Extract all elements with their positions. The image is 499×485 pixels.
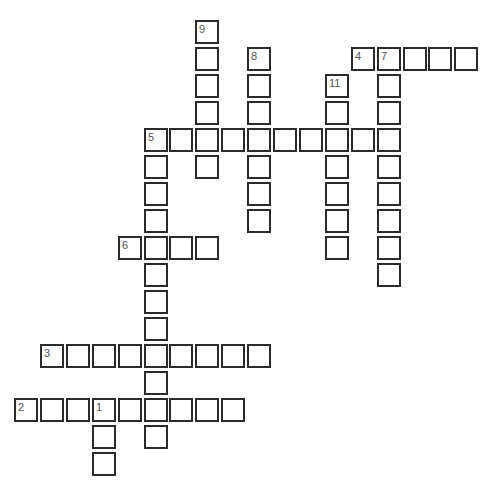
crossword-cell[interactable] (118, 398, 142, 422)
crossword-cell[interactable]: 7 (377, 47, 401, 71)
crossword-cell[interactable] (195, 236, 219, 260)
crossword-cell[interactable] (195, 101, 219, 125)
crossword-cell[interactable] (92, 344, 116, 368)
crossword-cell[interactable] (92, 425, 116, 449)
crossword-cell[interactable] (377, 74, 401, 98)
crossword-cell[interactable]: 5 (144, 128, 168, 152)
crossword-cell[interactable] (377, 209, 401, 233)
crossword-cell[interactable] (428, 47, 452, 71)
crossword-cell[interactable] (195, 47, 219, 71)
crossword-cell[interactable] (169, 398, 193, 422)
crossword-cell[interactable] (195, 74, 219, 98)
crossword-grid: 12347568911 (0, 0, 499, 485)
crossword-cell[interactable] (92, 452, 116, 476)
crossword-cell[interactable] (325, 182, 349, 206)
crossword-cell[interactable] (377, 236, 401, 260)
clue-number: 1 (96, 401, 102, 413)
crossword-cell[interactable] (144, 425, 168, 449)
crossword-cell[interactable] (377, 263, 401, 287)
crossword-cell[interactable] (221, 344, 245, 368)
crossword-cell[interactable] (144, 236, 168, 260)
crossword-cell[interactable] (144, 290, 168, 314)
crossword-cell[interactable] (144, 371, 168, 395)
crossword-cell[interactable] (247, 209, 271, 233)
crossword-cell[interactable] (144, 398, 168, 422)
crossword-cell[interactable] (144, 155, 168, 179)
crossword-cell[interactable] (195, 128, 219, 152)
crossword-cell[interactable]: 8 (247, 47, 271, 71)
crossword-cell[interactable] (325, 236, 349, 260)
clue-number: 7 (381, 50, 387, 62)
crossword-cell[interactable] (144, 344, 168, 368)
crossword-cell[interactable] (299, 128, 323, 152)
crossword-cell[interactable]: 2 (14, 398, 38, 422)
crossword-cell[interactable] (195, 344, 219, 368)
crossword-cell[interactable]: 1 (92, 398, 116, 422)
crossword-cell[interactable] (377, 182, 401, 206)
crossword-cell[interactable] (325, 101, 349, 125)
crossword-cell[interactable]: 11 (325, 74, 349, 98)
crossword-cell[interactable] (325, 209, 349, 233)
crossword-cell[interactable] (66, 398, 90, 422)
crossword-cell[interactable] (169, 344, 193, 368)
crossword-cell[interactable] (66, 344, 90, 368)
crossword-cell[interactable] (144, 209, 168, 233)
crossword-cell[interactable] (325, 155, 349, 179)
crossword-cell[interactable] (144, 182, 168, 206)
crossword-cell[interactable] (377, 101, 401, 125)
crossword-cell[interactable] (325, 128, 349, 152)
crossword-cell[interactable]: 4 (351, 47, 375, 71)
clue-number: 11 (329, 77, 340, 89)
crossword-cell[interactable] (169, 236, 193, 260)
crossword-cell[interactable]: 9 (195, 20, 219, 44)
crossword-cell[interactable] (144, 263, 168, 287)
crossword-cell[interactable]: 3 (40, 344, 64, 368)
crossword-cell[interactable] (195, 398, 219, 422)
clue-number: 2 (18, 401, 24, 413)
crossword-cell[interactable] (273, 128, 297, 152)
crossword-cell[interactable] (247, 182, 271, 206)
crossword-cell[interactable] (247, 74, 271, 98)
crossword-cell[interactable] (221, 398, 245, 422)
crossword-cell[interactable] (454, 47, 478, 71)
crossword-cell[interactable] (144, 317, 168, 341)
crossword-cell[interactable] (403, 47, 427, 71)
clue-number: 4 (355, 50, 361, 62)
crossword-cell[interactable] (195, 155, 219, 179)
clue-number: 5 (148, 131, 154, 143)
crossword-cell[interactable] (169, 128, 193, 152)
crossword-cell[interactable] (247, 155, 271, 179)
crossword-cell[interactable] (40, 398, 64, 422)
crossword-cell[interactable] (377, 155, 401, 179)
crossword-cell[interactable] (221, 128, 245, 152)
clue-number: 9 (199, 23, 205, 35)
clue-number: 8 (251, 50, 257, 62)
crossword-cell[interactable] (247, 128, 271, 152)
clue-number: 6 (122, 239, 128, 251)
crossword-cell[interactable] (247, 344, 271, 368)
clue-number: 3 (44, 347, 50, 359)
crossword-cell[interactable]: 6 (118, 236, 142, 260)
crossword-cell[interactable] (118, 344, 142, 368)
crossword-cell[interactable] (247, 101, 271, 125)
crossword-cell[interactable] (377, 128, 401, 152)
crossword-cell[interactable] (351, 128, 375, 152)
